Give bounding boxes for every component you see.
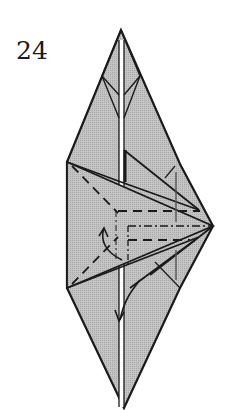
origami-diagram [0, 0, 243, 410]
